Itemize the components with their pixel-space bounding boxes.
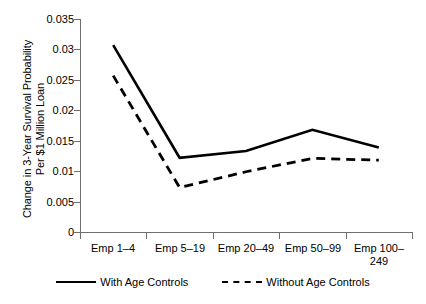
y-tick-label: 0.03 bbox=[22, 44, 74, 55]
y-tick-label: 0.035 bbox=[22, 14, 74, 25]
chart-legend: With Age Controls Without Age Controls bbox=[0, 276, 426, 288]
x-tick-mark bbox=[80, 233, 81, 239]
x-tick-mark bbox=[279, 233, 280, 239]
y-tick-label: 0.005 bbox=[22, 197, 74, 208]
x-tick-mark bbox=[346, 233, 347, 239]
x-tick-mark bbox=[146, 233, 147, 239]
x-tick-label: Emp 100– 249 bbox=[344, 242, 414, 268]
y-tick-label: 0.01 bbox=[22, 166, 74, 177]
x-tick-label: Emp 5–19 bbox=[145, 242, 215, 255]
x-tick-label: Emp 20–49 bbox=[211, 242, 281, 255]
legend-label: With Age Controls bbox=[100, 276, 188, 288]
x-axis-line bbox=[80, 232, 413, 233]
x-tick-mark bbox=[213, 233, 214, 239]
legend-swatch-dashed-line-icon bbox=[222, 281, 262, 283]
x-tick-mark bbox=[412, 233, 413, 239]
legend-item-without-age-controls: Without Age Controls bbox=[222, 276, 369, 288]
y-tick-label: 0.025 bbox=[22, 75, 74, 86]
y-tick-label: 0.015 bbox=[22, 136, 74, 147]
y-tick-label: 0 bbox=[22, 227, 74, 238]
x-tick-label: Emp 1–4 bbox=[78, 242, 148, 255]
y-tick-label: 0.02 bbox=[22, 105, 74, 116]
chart-figure: Change in 3-Year Survival Probability Pe… bbox=[0, 0, 426, 304]
x-tick-label: Emp 50–99 bbox=[278, 242, 348, 255]
legend-label: Without Age Controls bbox=[266, 276, 369, 288]
series-line-without-age-controls bbox=[113, 76, 379, 188]
y-axis-tick-labels: 0.035 0.03 0.025 0.02 0.015 0.01 0.005 0 bbox=[22, 0, 74, 304]
legend-swatch-solid-line-icon bbox=[56, 281, 96, 283]
plot-area bbox=[80, 19, 412, 232]
legend-item-with-age-controls: With Age Controls bbox=[56, 276, 188, 288]
